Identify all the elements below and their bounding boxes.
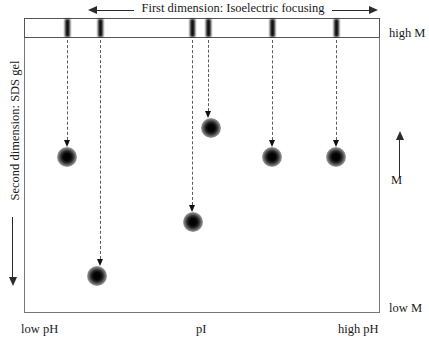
ph-pi-label: pI xyxy=(196,322,206,336)
migration-arrowhead-4 xyxy=(205,111,211,118)
migration-arrowhead-5 xyxy=(269,140,275,147)
isoelectric-focusing-strip xyxy=(24,18,380,38)
ief-band-4 xyxy=(206,19,211,37)
migration-arrowhead-2 xyxy=(97,259,103,266)
first-dimension-arrow: First dimension: Isoelectric focusing xyxy=(88,2,378,18)
second-dimension-axis: Second dimension: SDS gel xyxy=(2,45,22,245)
mass-high-label: high M xyxy=(389,26,425,40)
mass-low-label: low M xyxy=(389,301,422,315)
migration-track-4 xyxy=(208,40,209,111)
protein-spot-1 xyxy=(57,147,77,167)
ph-low-label: low pH xyxy=(21,322,58,336)
ief-band-3 xyxy=(190,19,195,37)
ph-high-label: high pH xyxy=(338,322,379,336)
migration-track-2 xyxy=(100,40,101,259)
migration-arrowhead-6 xyxy=(333,140,339,147)
second-dimension-caption: Second dimension: SDS gel xyxy=(8,46,23,216)
ief-band-2 xyxy=(98,19,103,37)
protein-spot-3 xyxy=(183,212,203,232)
protein-spot-5 xyxy=(262,147,282,167)
mass-axis-arrow-head-icon xyxy=(396,131,404,140)
migration-arrowhead-3 xyxy=(189,205,195,212)
first-dimension-caption: First dimension: Isoelectric focusing xyxy=(88,0,378,16)
migration-track-6 xyxy=(336,40,337,140)
migration-arrowhead-1 xyxy=(64,140,70,147)
mass-axis-label: M xyxy=(391,173,402,187)
second-dimension-arrow-head-icon xyxy=(9,277,17,286)
ief-band-1 xyxy=(65,19,70,37)
migration-track-5 xyxy=(272,40,273,140)
migration-track-1 xyxy=(67,40,68,140)
protein-spot-6 xyxy=(326,147,346,167)
two-dimensional-gel-electrophoresis-figure: First dimension: Isoelectric focusing Se… xyxy=(0,0,429,348)
ief-band-6 xyxy=(334,19,339,37)
protein-spot-4 xyxy=(201,118,221,138)
sds-gel-box xyxy=(24,38,380,313)
ief-band-5 xyxy=(270,19,275,37)
second-dimension-arrow-shaft xyxy=(12,217,13,279)
migration-track-3 xyxy=(192,40,193,205)
protein-spot-2 xyxy=(87,266,107,286)
